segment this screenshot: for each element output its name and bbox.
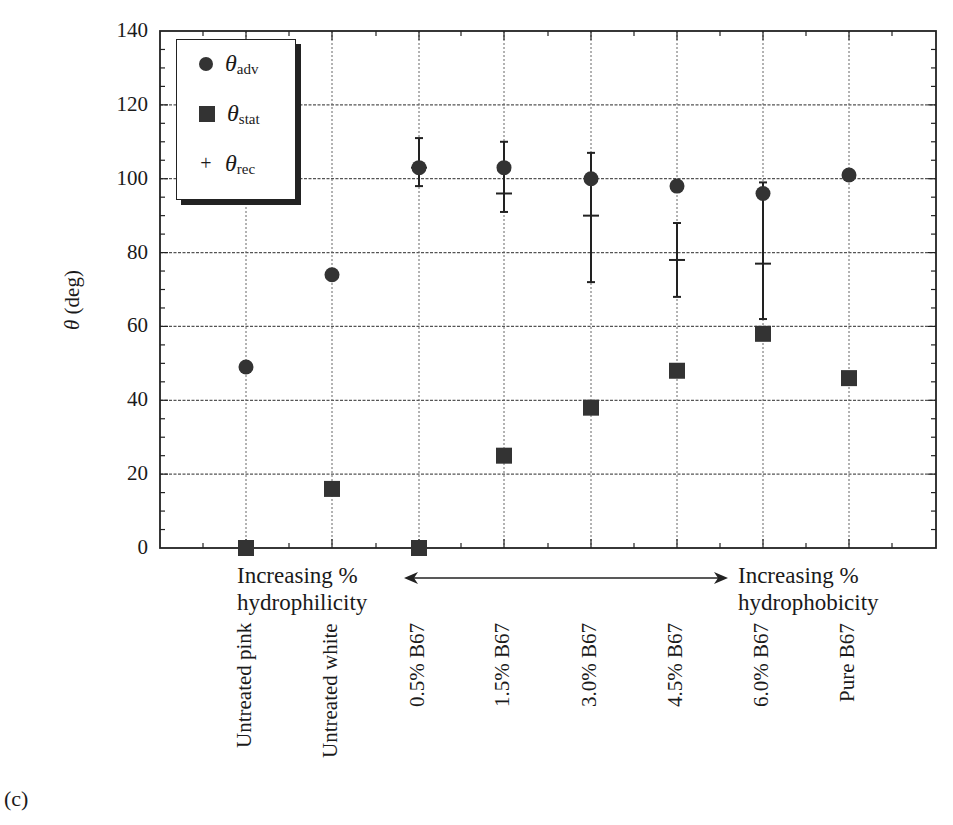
annotation-hydrophobicity-line1: Increasing % <box>738 564 859 587</box>
x-category-label: 4.5% B67 <box>665 623 686 707</box>
x-category-label: 6.0% B67 <box>751 623 772 707</box>
theta-stat-marker <box>583 400 599 416</box>
legend-item-rec: + θrec <box>199 150 255 177</box>
theta-adv-marker <box>325 267 340 282</box>
x-category-label: Untreated white <box>320 623 341 758</box>
theta-adv-marker <box>239 360 254 375</box>
x-category-label: 1.5% B67 <box>492 623 513 707</box>
figure-label: (c) <box>4 788 28 810</box>
legend-base: θ <box>225 50 237 77</box>
theta-adv-marker <box>842 168 857 183</box>
theta-adv-marker <box>497 160 512 175</box>
y-tick-label: 80 <box>88 242 148 263</box>
theta-stat-marker <box>238 540 254 556</box>
theta-adv-marker <box>756 186 771 201</box>
theta-adv-marker <box>412 160 427 175</box>
y-tick-label: 120 <box>88 94 148 115</box>
y-axis-label: θ (deg) <box>62 270 83 330</box>
theta-stat-marker <box>841 370 857 386</box>
plus-marker-icon: + <box>199 152 213 175</box>
annotation-hydrophilicity-line2: hydrophilicity <box>237 591 367 614</box>
theta-adv-marker <box>584 171 599 186</box>
y-tick-label: 40 <box>88 389 148 410</box>
x-category-label: Pure B67 <box>837 623 858 702</box>
y-tick-label: 100 <box>88 168 148 189</box>
theta-stat-marker <box>324 481 340 497</box>
theta-stat-marker <box>496 448 512 464</box>
annotation-hydrophobicity-line2: hydrophobicity <box>738 591 879 614</box>
x-category-label: Untreated pink <box>234 623 255 748</box>
legend-item-stat: θstat <box>199 100 260 127</box>
chart-plot-area <box>0 0 953 825</box>
legend-sub: rec <box>237 161 255 178</box>
y-tick-label: 0 <box>88 537 148 558</box>
legend: θadv θstat + θrec <box>176 39 296 200</box>
legend-item-adv: θadv <box>199 50 258 77</box>
theta-adv-marker <box>670 179 685 194</box>
legend-sub: stat <box>239 111 260 128</box>
theta-stat-marker <box>411 540 427 556</box>
y-axis-unit: (deg) <box>60 270 84 314</box>
y-tick-label: 60 <box>88 315 148 336</box>
annotation-hydrophilicity-line1: Increasing % <box>237 564 358 587</box>
square-marker-icon <box>199 106 215 122</box>
legend-base: θ <box>225 150 237 177</box>
y-tick-label: 20 <box>88 463 148 484</box>
circle-marker-icon <box>199 57 213 71</box>
theta-stat-marker <box>669 363 685 379</box>
theta-stat-marker <box>755 326 771 342</box>
legend-sub: adv <box>237 61 259 78</box>
y-tick-label: 140 <box>88 20 148 41</box>
x-category-label: 0.5% B67 <box>407 623 428 707</box>
x-category-label: 3.0% B67 <box>579 623 600 707</box>
y-axis-symbol: θ <box>60 320 84 330</box>
legend-base: θ <box>227 100 239 127</box>
